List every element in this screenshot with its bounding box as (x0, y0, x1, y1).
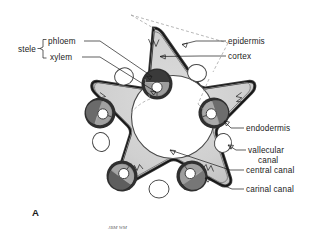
leader-epidermis (182, 41, 226, 45)
label-endodermis: endodermis (246, 124, 290, 133)
leader-endodermis (224, 121, 244, 128)
figure-equisetum-stem-cross-section: stele phloem xylem epidermis cortex endo… (0, 0, 317, 242)
leader-cortex (160, 56, 226, 57)
vallecular-canal (91, 131, 110, 152)
label-central-canal: central canal (246, 166, 294, 175)
label-phloem: phloem (48, 37, 76, 46)
stele-bracket (38, 40, 47, 59)
artist-signature: JBM WM (108, 225, 128, 230)
vallecular-canal (149, 180, 169, 198)
label-carinal-canal: carinal canal (246, 185, 294, 194)
label-xylem: xylem (50, 53, 72, 62)
panel-label: A (32, 207, 39, 218)
label-vallecular-canal-line1: vallecular (248, 146, 284, 155)
label-stele: stele (18, 45, 36, 54)
label-epidermis: epidermis (228, 37, 265, 46)
label-vallecular-canal-line2: canal (258, 156, 278, 165)
vascular-bundle (142, 69, 173, 100)
label-cortex: cortex (228, 52, 251, 61)
